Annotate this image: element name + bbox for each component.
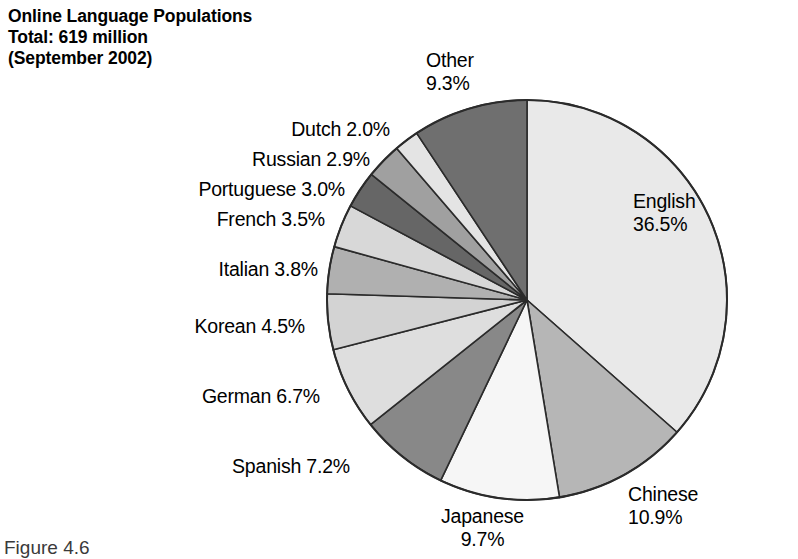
pie-label-spanish-value: 7.2%	[306, 455, 350, 477]
pie-label-russian-value: 2.9%	[326, 148, 370, 170]
pie-label-russian: Russian 2.9%	[40, 148, 370, 171]
pie-label-french-value: 3.5%	[281, 208, 325, 230]
pie-chart-figure: Online Language Populations Total: 619 m…	[0, 0, 798, 559]
pie-label-chinese-name: Chinese	[628, 483, 698, 506]
pie-label-japanese-name: Japanese	[420, 505, 545, 528]
pie-label-dutch: Dutch 2.0%	[60, 118, 390, 141]
pie-label-japanese-value: 9.7%	[420, 528, 545, 551]
pie-label-italian: Italian 3.8%	[30, 258, 318, 281]
pie-label-french-name: French	[217, 208, 277, 230]
pie-label-english-value: 36.5%	[633, 213, 696, 236]
pie-label-other: Other 9.3%	[426, 49, 474, 95]
pie-slice-group	[327, 100, 727, 500]
pie-label-english-name: English	[633, 190, 696, 213]
pie-label-spanish-name: Spanish	[232, 455, 301, 477]
pie-label-spanish: Spanish 7.2%	[60, 455, 350, 478]
pie-label-chinese-value: 10.9%	[628, 506, 698, 529]
pie-label-japanese: Japanese 9.7%	[420, 505, 545, 551]
pie-label-russian-name: Russian	[252, 148, 321, 170]
pie-label-portuguese-name: Portuguese	[198, 178, 296, 200]
pie-label-german-name: German	[202, 385, 271, 407]
pie-label-portuguese: Portuguese 3.0%	[20, 178, 345, 201]
pie-label-dutch-name: Dutch	[291, 118, 341, 140]
pie-label-italian-value: 3.8%	[274, 258, 318, 280]
pie-label-german: German 6.7%	[30, 385, 320, 408]
pie-label-german-value: 6.7%	[276, 385, 320, 407]
pie-label-chinese: Chinese 10.9%	[628, 483, 698, 529]
pie-label-korean: Korean 4.5%	[30, 315, 305, 338]
pie-label-other-value: 9.3%	[426, 72, 474, 95]
pie-label-other-name: Other	[426, 49, 474, 72]
pie-label-english: English 36.5%	[633, 190, 696, 236]
figure-caption: Figure 4.6	[4, 536, 90, 559]
pie-label-korean-value: 4.5%	[261, 315, 305, 337]
pie-label-italian-name: Italian	[218, 258, 269, 280]
pie-label-dutch-value: 2.0%	[346, 118, 390, 140]
pie-label-korean-name: Korean	[194, 315, 256, 337]
pie-label-portuguese-value: 3.0%	[301, 178, 345, 200]
pie-label-french: French 3.5%	[30, 208, 325, 231]
